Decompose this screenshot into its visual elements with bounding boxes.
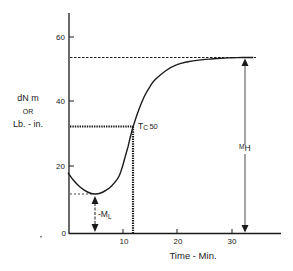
x-tick-label-30: 30 [228, 237, 237, 246]
y-tick-label-60: 60 [56, 33, 65, 42]
y-axis-label-line3: Lb. - in. [13, 119, 43, 129]
y-tick-label-40: 40 [56, 97, 65, 106]
x-tick-label-10: 10 [120, 237, 129, 246]
cure-chart: 60 40 20 0 10 20 30 Time - Min. dN m OR … [0, 0, 293, 271]
x-tick-label-20: 20 [174, 237, 183, 246]
tc50-label: TC50 [138, 121, 158, 131]
y-axis-label-line1: dN m [17, 93, 39, 103]
ml-label: -ML [98, 209, 112, 220]
mh-label: MH [239, 143, 251, 153]
y-ticks [69, 37, 74, 166]
y-tick-label-0: 0 [62, 229, 67, 238]
scan-artifact-dot [40, 236, 42, 238]
x-axis-label: Time - Min. [169, 250, 216, 261]
y-axis-label-line2: OR [23, 108, 34, 115]
y-tick-label-20: 20 [56, 162, 65, 171]
cure-curve [68, 57, 253, 194]
